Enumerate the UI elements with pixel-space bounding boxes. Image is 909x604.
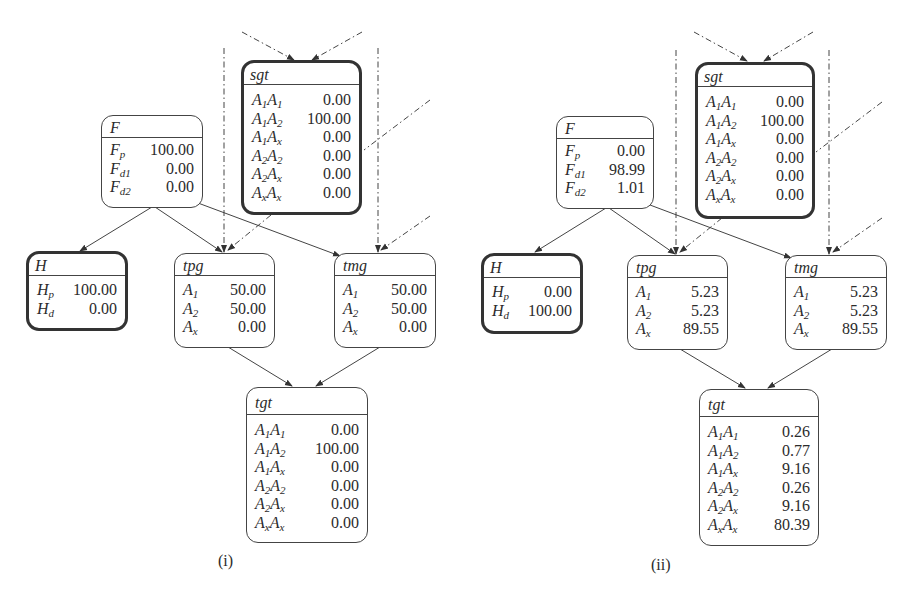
state-value: 100.00	[150, 141, 194, 160]
node-H-ii[interactable]: H Hp0.00 Hd100.00	[481, 253, 583, 334]
node-F-i[interactable]: F Fp100.00 Fd10.00 Fd20.00	[101, 115, 203, 208]
state-row: Ax0.00	[343, 318, 427, 337]
state-label: A1A2	[255, 440, 286, 459]
state-value: 0.00	[331, 477, 359, 496]
state-label: A1Ax	[252, 128, 282, 147]
state-label: A1Ax	[706, 130, 736, 149]
state-label: Fd1	[565, 161, 586, 180]
state-value: 100.00	[307, 110, 351, 129]
state-row: Fd198.99	[565, 161, 645, 180]
state-value: 5.23	[691, 283, 719, 302]
state-value: 0.26	[782, 479, 810, 498]
state-value: 89.55	[683, 320, 719, 339]
state-value: 100.00	[528, 302, 572, 321]
state-value: 0.00	[323, 147, 351, 166]
state-label: A2Ax	[708, 497, 738, 516]
node-title: sgt	[244, 63, 359, 85]
state-label: A1A1	[255, 421, 286, 440]
state-row: A1Ax9.16	[708, 460, 810, 479]
state-row: A1A10.00	[252, 91, 351, 110]
state-value: 0.00	[238, 318, 266, 337]
node-tpg-ii[interactable]: tpg A15.23 A25.23 Ax89.55	[627, 255, 728, 350]
state-row: A1A2100.00	[255, 440, 359, 459]
edge-tpg-tgt-ii	[680, 349, 745, 388]
state-row: A2A20.26	[708, 479, 810, 498]
state-row: A2Ax0.00	[252, 165, 351, 184]
state-row: A2A20.00	[706, 149, 804, 168]
state-label: A2A2	[255, 477, 286, 496]
node-title: tgt	[247, 388, 367, 415]
node-F-ii[interactable]: F Fp0.00 Fd198.99 Fd21.01	[556, 116, 654, 209]
state-row: Hp100.00	[37, 281, 117, 300]
state-row: Ax89.55	[794, 320, 878, 339]
state-row: A2A20.00	[252, 147, 351, 166]
state-row: A150.00	[183, 281, 266, 300]
node-tgt-i[interactable]: tgt A1A10.00 A1A2100.00 A1Ax0.00 A2A20.0…	[246, 387, 368, 543]
state-label: Hd	[492, 302, 509, 321]
state-row: Hd100.00	[492, 302, 572, 321]
state-label: A2A2	[708, 479, 739, 498]
state-row: A250.00	[183, 300, 266, 319]
state-label: Ax	[343, 318, 358, 337]
state-row: A2Ax9.16	[708, 497, 810, 516]
state-value: 0.00	[323, 91, 351, 110]
state-value: 0.00	[776, 186, 804, 205]
node-H-i[interactable]: H Hp100.00 Hd0.00	[26, 251, 128, 331]
state-row: A150.00	[343, 281, 427, 300]
node-tgt-ii[interactable]: tgt A1A10.26 A1A20.77 A1Ax9.16 A2A20.26 …	[699, 389, 819, 546]
state-row: A1A20.77	[708, 442, 810, 461]
state-value: 0.00	[331, 458, 359, 477]
state-value: 0.00	[776, 130, 804, 149]
state-value: 100.00	[315, 440, 359, 459]
state-value: 0.00	[323, 184, 351, 203]
state-value: 5.23	[850, 302, 878, 321]
state-row: A1A10.00	[706, 93, 804, 112]
state-value: 5.23	[691, 302, 719, 321]
state-label: A2Ax	[255, 495, 285, 514]
state-row: A1A2100.00	[252, 110, 351, 129]
state-row: A2A20.00	[255, 477, 359, 496]
state-value: 0.00	[399, 318, 427, 337]
node-title: F	[102, 116, 202, 138]
state-value: 0.00	[544, 283, 572, 302]
state-row: A1Ax0.00	[252, 128, 351, 147]
state-row: Fd10.00	[110, 160, 194, 179]
state-value: 0.00	[331, 514, 359, 533]
node-title: tgt	[700, 390, 818, 417]
state-label: A2	[183, 300, 198, 319]
state-row: AxAx80.39	[708, 516, 810, 535]
state-row: AxAx0.00	[255, 514, 359, 533]
state-label: A1	[794, 283, 809, 302]
state-label: A1Ax	[255, 458, 285, 477]
node-title: sgt	[698, 65, 812, 87]
state-row: Fd21.01	[565, 179, 645, 198]
state-label: Ax	[183, 318, 198, 337]
node-tmg-i[interactable]: tmg A150.00 A250.00 Ax0.00	[334, 253, 436, 348]
state-row: A15.23	[794, 283, 878, 302]
state-label: Hd	[37, 300, 54, 319]
state-value: 0.00	[331, 421, 359, 440]
node-sgt-ii[interactable]: sgt A1A10.00 A1A2100.00 A1Ax0.00 A2A20.0…	[695, 62, 815, 219]
state-value: 50.00	[391, 281, 427, 300]
state-row: Ax89.55	[636, 320, 719, 339]
node-sgt-i[interactable]: sgt A1A10.00 A1A2100.00 A1Ax0.00 A2A20.0…	[241, 60, 362, 215]
state-value: 0.00	[323, 165, 351, 184]
state-label: A2	[636, 302, 651, 321]
state-value: 0.00	[323, 128, 351, 147]
state-value: 0.00	[166, 160, 194, 179]
state-value: 5.23	[850, 283, 878, 302]
state-label: Fd1	[110, 160, 131, 179]
state-label: Fd2	[110, 178, 131, 197]
state-value: 80.39	[774, 516, 810, 535]
state-row: A1A10.00	[255, 421, 359, 440]
edge-tpg-tgt-i	[228, 347, 292, 386]
state-value: 0.00	[89, 300, 117, 319]
state-row: Fp0.00	[565, 142, 645, 161]
state-label: Hp	[492, 283, 509, 302]
state-value: 0.00	[166, 178, 194, 197]
node-tpg-i[interactable]: tpg A150.00 A250.00 Ax0.00	[174, 253, 275, 348]
state-row: Fd20.00	[110, 178, 194, 197]
state-label: A2	[343, 300, 358, 319]
node-tmg-ii[interactable]: tmg A15.23 A25.23 Ax89.55	[785, 255, 887, 350]
state-row: A2Ax0.00	[255, 495, 359, 514]
